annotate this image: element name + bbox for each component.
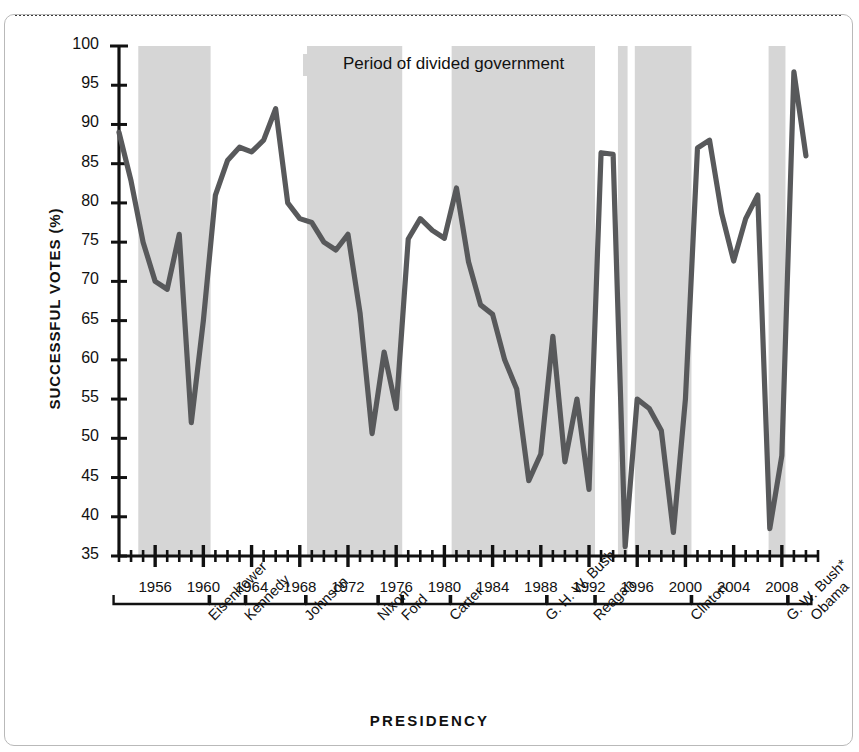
divided-government-band bbox=[452, 46, 595, 556]
y-tick-label: 75 bbox=[59, 231, 99, 249]
figure-page: SUCCESSFUL VOTES (%) PRESIDENCY Period o… bbox=[0, 0, 859, 752]
x-tick-label: 1988 bbox=[516, 578, 566, 595]
y-tick-label: 50 bbox=[59, 427, 99, 445]
x-tick-label: 2008 bbox=[757, 578, 807, 595]
y-tick-label: 70 bbox=[59, 270, 99, 288]
y-tick-label: 85 bbox=[59, 153, 99, 171]
y-tick-label: 35 bbox=[59, 545, 99, 563]
divided-government-band bbox=[307, 46, 402, 556]
y-tick-label: 80 bbox=[59, 192, 99, 210]
x-tick-label: 1960 bbox=[178, 578, 228, 595]
presidency-bracket bbox=[114, 595, 209, 604]
y-tick-label: 65 bbox=[59, 310, 99, 328]
line-chart bbox=[0, 0, 859, 752]
y-axis-title: SUCCESSFUL VOTES (%) bbox=[46, 169, 63, 449]
x-tick-label: 2000 bbox=[660, 578, 710, 595]
y-tick-label: 45 bbox=[59, 467, 99, 485]
y-tick-label: 95 bbox=[59, 74, 99, 92]
y-tick-label: 55 bbox=[59, 388, 99, 406]
legend-swatch-divided-government bbox=[303, 54, 331, 76]
y-tick-label: 90 bbox=[59, 113, 99, 131]
x-axis-title: PRESIDENCY bbox=[0, 712, 859, 729]
x-tick-label: 1980 bbox=[419, 578, 469, 595]
divided-government-band bbox=[635, 46, 692, 556]
y-tick-label: 40 bbox=[59, 506, 99, 524]
divided-government-band bbox=[138, 46, 210, 556]
legend-label-divided-government: Period of divided government bbox=[343, 54, 564, 74]
y-tick-label: 100 bbox=[59, 35, 99, 53]
y-tick-label: 60 bbox=[59, 349, 99, 367]
x-tick-label: 1956 bbox=[130, 578, 180, 595]
